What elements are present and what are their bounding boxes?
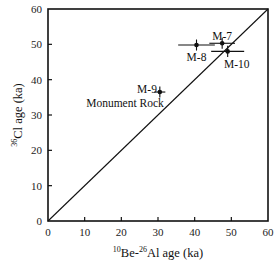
y-axis-title: 36Cl age (ka) xyxy=(10,83,25,147)
y-tick-label: 60 xyxy=(31,3,43,15)
x-tick-label: 0 xyxy=(45,226,51,238)
point-label: M-8 xyxy=(187,51,207,63)
x-tick-label: 30 xyxy=(153,226,165,238)
x-axis-title: 10Be-26Al age (ka) xyxy=(113,245,203,260)
data-point-m-10 xyxy=(211,46,244,57)
point-label: M-7 xyxy=(212,30,232,42)
y-tick-label: 40 xyxy=(31,74,43,86)
scatter-chart: 01020304050600102030405060 M-7M-8M-10M-9… xyxy=(0,0,279,265)
y-tick-label: 50 xyxy=(31,38,43,50)
x-tick-label: 50 xyxy=(226,226,238,238)
y-tick-label: 10 xyxy=(31,180,43,192)
x-tick-label: 60 xyxy=(263,226,275,238)
y-tick-label: 20 xyxy=(31,144,43,156)
x-tick-label: 40 xyxy=(189,226,201,238)
data-point-m-8 xyxy=(178,40,215,51)
x-tick-label: 20 xyxy=(116,226,128,238)
point-label: Monument Rock xyxy=(86,97,164,109)
x-tick-label: 10 xyxy=(79,226,91,238)
y-tick-label: 0 xyxy=(37,215,43,227)
y-tick-label: 30 xyxy=(31,109,43,121)
one-to-one-line xyxy=(48,9,268,221)
point-labels: M-7M-8M-10M-9Monument Rock xyxy=(86,30,250,109)
point-label: M-9 xyxy=(137,83,157,95)
point-label: M-10 xyxy=(224,58,250,70)
